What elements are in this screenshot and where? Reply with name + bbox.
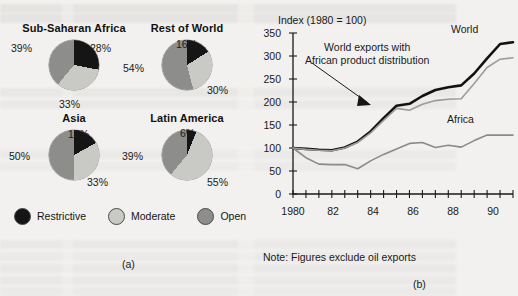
pie-title: Asia xyxy=(15,112,133,124)
pie-slice-label-moderate: 30% xyxy=(207,84,228,96)
pie-slice-label-restrictive: 28% xyxy=(90,42,111,54)
pie-slice-label-restrictive: 16% xyxy=(176,38,197,50)
pie-slice-label-moderate: 55% xyxy=(207,176,228,188)
pie-chart-sub-saharan-africa: Sub-Saharan Africa 28% 33% 39% xyxy=(15,22,133,112)
chart-note: Note: Figures exclude oil exports xyxy=(263,251,416,263)
pie-slice-label-restrictive: 6% xyxy=(180,127,195,139)
legend-item-restrictive: Restrictive xyxy=(14,208,86,225)
pie-title: Latin America xyxy=(128,112,246,124)
legend-label: Moderate xyxy=(131,210,175,222)
pie-chart-latin-america: Latin America 6% 55% 39% xyxy=(128,112,246,202)
chart-annotation-line2: African product distribution xyxy=(305,54,429,67)
annotation-arrow-icon xyxy=(312,63,371,106)
pie-slice-label-open: 39% xyxy=(122,150,143,162)
legend-label: Open xyxy=(220,210,246,222)
caption-a: (a) xyxy=(122,258,135,270)
pie-title: Rest of World xyxy=(128,22,246,34)
panel-b-line-chart: Index (1980 = 100) 350 300 250 200 150 1… xyxy=(255,0,518,296)
pie-chart-rest-of-world: Rest of World 16% 30% 54% xyxy=(128,22,246,112)
chart-annotation: World exports with African product distr… xyxy=(305,41,429,66)
pie-title: Sub-Saharan Africa xyxy=(15,22,133,34)
pie-slice-label-moderate: 33% xyxy=(59,98,80,110)
pie-slice-label-open: 50% xyxy=(9,150,30,162)
legend-swatch-restrictive-icon xyxy=(14,208,31,225)
legend-swatch-moderate-icon xyxy=(108,208,125,225)
pie-slice-label-open: 54% xyxy=(123,62,144,74)
legend-label: Restrictive xyxy=(37,210,86,222)
caption-b: (b) xyxy=(413,278,426,290)
chart-annotation-line1: World exports with xyxy=(305,41,429,54)
panel-a-pie-charts: Sub-Saharan Africa 28% 33% 39% Rest of W… xyxy=(0,0,255,296)
legend-item-open: Open xyxy=(197,208,246,225)
pie-slice-label-moderate: 33% xyxy=(87,176,108,188)
pie-chart-asia: Asia 17% 33% 50% xyxy=(15,112,133,202)
series-label-africa: Africa xyxy=(447,113,474,125)
figure-container: Sub-Saharan Africa 28% 33% 39% Rest of W… xyxy=(0,0,518,296)
pie-slice-label-open: 39% xyxy=(11,42,32,54)
series-label-world: World xyxy=(451,23,478,35)
pie-slice-label-restrictive: 17% xyxy=(68,128,89,140)
pie-legend: Restrictive Moderate Open xyxy=(14,206,244,226)
legend-item-moderate: Moderate xyxy=(108,208,175,225)
legend-swatch-open-icon xyxy=(197,208,214,225)
